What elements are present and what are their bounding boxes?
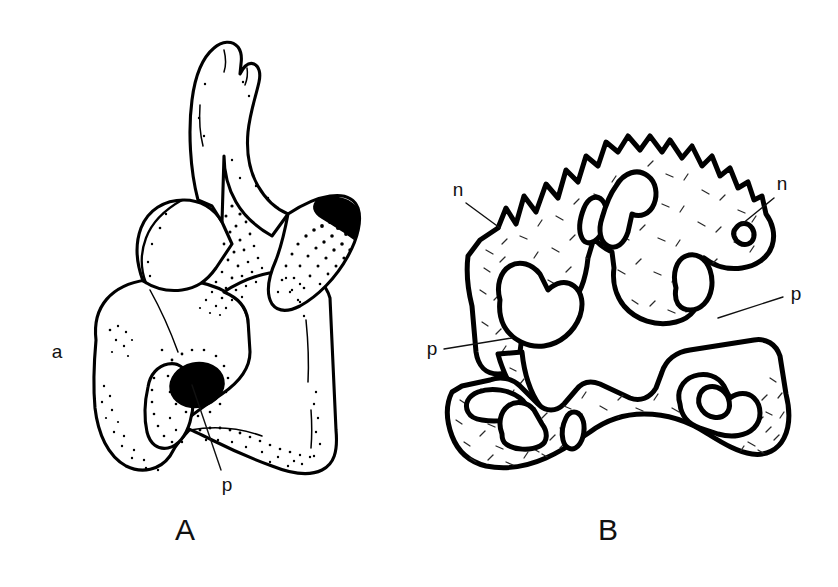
annotation-label-a-p: p <box>222 474 233 495</box>
panel-label-a: A <box>175 513 195 546</box>
figure-root: a p A n n p p B <box>0 0 838 587</box>
annotation-label-b-n-left: n <box>453 179 464 200</box>
cavity-upper-right-small <box>734 224 754 245</box>
annotation-label-a-a: a <box>52 341 63 362</box>
panel-label-b: B <box>598 513 618 546</box>
figure-canvas: a p A n n p p B <box>0 0 838 587</box>
annotation-label-b-p-right: p <box>791 283 802 304</box>
bone-body-crease-3 <box>311 410 312 448</box>
cavity-upper-right-large <box>674 255 712 310</box>
annotation-label-b-p-left: p <box>427 338 438 359</box>
cavity-lower-mid-droplet <box>562 412 584 449</box>
annotation-label-b-n-right: n <box>777 173 788 194</box>
cavity-lower-right-notch <box>699 387 730 418</box>
